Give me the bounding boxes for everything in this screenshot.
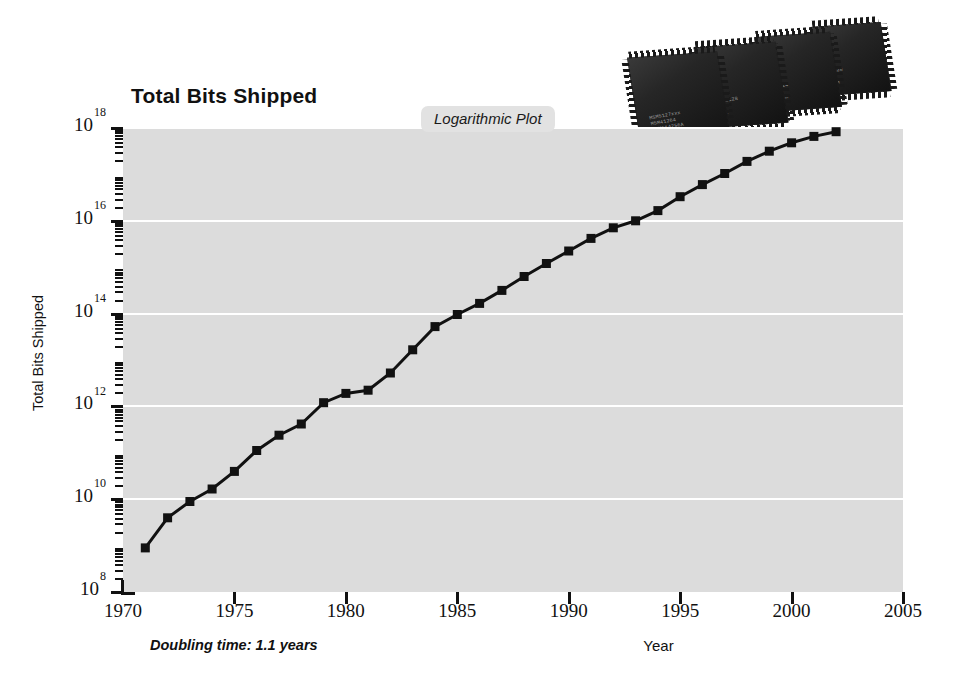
y-tick-minor [115, 321, 123, 323]
x-tick-label: 2000 [773, 600, 811, 622]
x-tick-label: 1985 [438, 600, 476, 622]
gridline-y [123, 220, 903, 222]
y-tick-minor [115, 286, 123, 288]
x-tick-label: 1990 [550, 600, 588, 622]
y-tick-label: 108 [80, 577, 106, 600]
y-tick-minor [115, 160, 123, 162]
y-tick-minor [115, 146, 123, 148]
y-tick-minor [115, 384, 123, 386]
y-tick-minor [115, 556, 123, 558]
y-tick-mantissa: 10 [74, 486, 93, 507]
y-tick-minor [115, 477, 123, 479]
y-tick-minor [115, 135, 123, 137]
y-axis-label: Total Bits Shipped [30, 253, 46, 453]
y-tick-minor [115, 485, 123, 487]
y-tick-minor [115, 425, 123, 427]
y-tick-minor [115, 182, 123, 184]
y-tick-minor [115, 504, 123, 506]
y-tick-minor [115, 130, 123, 132]
y-tick-mantissa: 10 [74, 207, 93, 228]
y-tick-minor [115, 207, 123, 209]
y-tick-exponent: 8 [100, 569, 106, 583]
y-tick-mantissa: 10 [80, 578, 99, 599]
y-tick-mantissa: 10 [74, 393, 93, 414]
y-tick-minor [115, 463, 123, 465]
y-tick-minor [115, 346, 123, 348]
y-tick-minor [115, 553, 123, 555]
y-tick-minor [115, 364, 123, 366]
y-tick-minor [115, 223, 123, 225]
y-tick-minor [115, 318, 123, 320]
y-tick-minor [115, 506, 123, 508]
x-tick-label: 1980 [327, 600, 365, 622]
y-tick-minor [115, 188, 123, 190]
y-tick-minor [115, 177, 123, 179]
x-tick-label: 2005 [884, 600, 922, 622]
y-tick-label: 1014 [74, 299, 106, 322]
y-tick-minor [115, 142, 123, 144]
y-tick-minor [115, 316, 123, 318]
y-tick-minor [115, 550, 123, 552]
y-tick-minor [115, 239, 123, 241]
y-tick-minor [115, 523, 123, 525]
x-axis-label-text: Year [643, 637, 673, 654]
y-tick-minor [115, 417, 123, 419]
y-tick-minor [115, 409, 123, 411]
y-tick-exponent: 10 [94, 476, 106, 490]
y-tick-minor [115, 439, 123, 441]
y-tick-label: 1016 [74, 206, 106, 229]
y-tick-minor [115, 245, 123, 247]
y-tick-minor [115, 324, 123, 326]
y-tick-minor [115, 460, 123, 462]
x-tick-label: 1970 [104, 600, 142, 622]
y-tick-minor [115, 509, 123, 511]
gridline-y [123, 313, 903, 315]
y-tick-minor [115, 225, 123, 227]
y-tick-minor [115, 193, 123, 195]
y-tick-minor [115, 367, 123, 369]
y-tick-minor [115, 332, 123, 334]
y-tick-minor [115, 328, 123, 330]
y-tick-label: 1018 [74, 113, 106, 136]
y-tick-minor [115, 578, 123, 580]
x-tick-label: 1995 [661, 600, 699, 622]
y-tick-minor [115, 501, 123, 503]
y-tick-minor [115, 532, 123, 534]
y-tick-minor [115, 281, 123, 283]
logarithmic-plot-badge: Logarithmic Plot [421, 106, 555, 132]
y-tick-minor [115, 274, 123, 276]
y-tick-minor [115, 411, 123, 413]
y-tick-minor [115, 420, 123, 422]
y-tick-minor [115, 231, 123, 233]
y-tick-minor [115, 370, 123, 372]
y-tick-minor [115, 392, 123, 394]
y-tick-minor [115, 269, 123, 271]
y-tick-label: 1012 [74, 391, 106, 414]
memory-chip-photo-group: K4S28 16 28M HM514 256 128M HM628128 1M1… [648, 18, 918, 136]
y-tick-minor [115, 362, 123, 364]
y-tick-minor [115, 564, 123, 566]
y-tick-minor [115, 228, 123, 230]
y-tick-label: 1010 [74, 484, 106, 507]
y-tick-minor [115, 467, 123, 469]
gridline-y [123, 498, 903, 500]
y-tick-exponent: 12 [94, 384, 106, 398]
y-tick-minor [115, 570, 123, 572]
y-tick-minor [115, 152, 123, 154]
y-tick-minor [115, 374, 123, 376]
y-tick-minor [115, 138, 123, 140]
y-tick-mantissa: 10 [74, 300, 93, 321]
y-tick-major [111, 591, 123, 594]
y-tick-minor [115, 235, 123, 237]
y-tick-minor [115, 277, 123, 279]
chart-page: K4S28 16 28M HM514 256 128M HM628128 1M1… [0, 0, 973, 696]
y-tick-minor [115, 548, 123, 550]
y-tick-exponent: 18 [94, 105, 106, 119]
y-tick-minor [115, 414, 123, 416]
y-tick-mantissa: 10 [74, 114, 93, 135]
y-tick-exponent: 14 [94, 291, 106, 305]
y-tick-minor [115, 518, 123, 520]
chart-title: Total Bits Shipped [131, 84, 317, 108]
y-tick-minor [115, 513, 123, 515]
gridline-y [123, 405, 903, 407]
